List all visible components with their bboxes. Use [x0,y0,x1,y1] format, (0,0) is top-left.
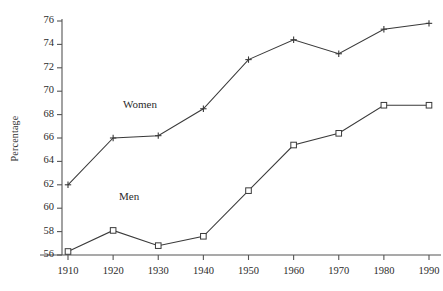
x-tick-label: 1920 [93,265,133,276]
data-point-marker [426,102,432,108]
y-tick-label: 70 [22,84,54,95]
y-tick-label: 64 [22,154,54,165]
x-tick-label: 1960 [274,265,314,276]
y-tick-label: 58 [22,225,54,236]
data-point-marker [381,102,387,108]
series-label-women: Women [123,98,157,110]
data-point-marker [110,228,116,234]
data-point-marker [65,249,71,255]
y-axis-ticks [57,21,62,255]
data-point-marker [155,243,161,249]
data-point-marker [336,51,342,57]
x-tick-label: 1990 [409,265,443,276]
x-tick-label: 1940 [183,265,223,276]
x-tick-label: 1970 [319,265,359,276]
data-point-marker [201,233,207,239]
y-tick-label: 68 [22,108,54,119]
series-label-men: Men [119,190,139,202]
data-point-marker [381,26,387,32]
data-point-marker [426,20,432,26]
data-point-marker [336,131,342,137]
x-axis-ticks [68,255,429,260]
y-tick-label: 72 [22,61,54,72]
y-tick-label: 76 [22,14,54,25]
chart-plot-area [0,0,443,291]
line-chart: Percentage 56586062646668707274761910192… [0,0,443,291]
data-point-marker [290,37,296,43]
series-women [65,20,432,188]
data-point-marker [246,188,252,194]
data-point-marker [155,132,161,138]
y-tick-label: 60 [22,201,54,212]
x-tick-label: 1980 [364,265,404,276]
series-men [65,102,432,254]
data-point-marker [291,142,297,148]
y-tick-label: 56 [22,248,54,259]
x-tick-label: 1910 [48,265,88,276]
x-tick-label: 1930 [138,265,178,276]
y-tick-label: 66 [22,131,54,142]
y-tick-label: 62 [22,178,54,189]
axis-lines [40,19,441,255]
y-tick-label: 74 [22,37,54,48]
x-tick-label: 1950 [229,265,269,276]
